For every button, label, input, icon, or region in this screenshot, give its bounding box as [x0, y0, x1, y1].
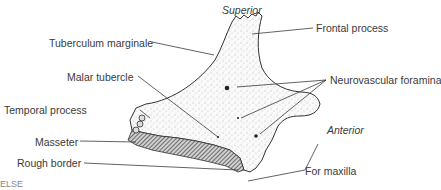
label-masseter: Masseter: [35, 136, 78, 148]
label-rough-border: Rough border: [17, 157, 81, 169]
label-malar-tubercle: Malar tubercle: [67, 71, 134, 83]
label-frontal-process: Frontal process: [316, 22, 388, 34]
label-for-maxilla: For maxilla: [305, 165, 356, 177]
foramen-1: [225, 86, 230, 91]
label-neurovascular-foramina: Neurovascular foramina: [330, 74, 441, 86]
label-tuberculum-marginale: Tuberculum marginale: [49, 37, 153, 49]
label-temporal-process: Temporal process: [4, 104, 87, 116]
orientation-superior: Superior: [222, 4, 262, 16]
foramen-2: [254, 134, 258, 138]
corner-fragment-text: ELSE: [0, 178, 23, 190]
orientation-anterior: Anterior: [327, 124, 364, 136]
